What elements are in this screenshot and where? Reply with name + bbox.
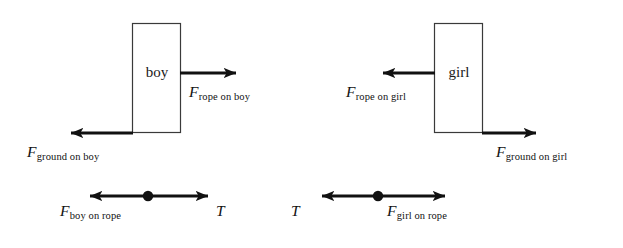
force-symbol-boy-on-rope: F — [60, 202, 69, 219]
rope-right-center-dot — [373, 191, 383, 201]
rope-left-center-dot — [143, 191, 153, 201]
girl-body-label: girl — [435, 64, 483, 81]
force-symbol-rope-on-boy: F — [189, 83, 198, 100]
boy-body-label: boy — [133, 64, 181, 81]
force-diagram-figure: boy girl Frope on boy Fground on boy Fro… — [0, 0, 623, 248]
force-subscript-boy-on-rope: boy on rope — [70, 210, 121, 221]
force-symbol-ground-on-boy: F — [27, 143, 36, 160]
force-subscript-girl-on-rope: girl on rope — [397, 210, 447, 221]
force-label-girl-on-rope: Fgirl on rope — [387, 203, 447, 219]
force-symbol-ground-on-girl: F — [496, 143, 505, 160]
force-subscript-rope-on-girl: rope on girl — [356, 91, 406, 102]
force-label-rope-on-boy: Frope on boy — [189, 84, 250, 100]
tension-label-right: T — [291, 202, 300, 220]
force-label-ground-on-girl: Fground on girl — [496, 144, 567, 160]
tension-label-left: T — [216, 202, 225, 220]
force-subscript-ground-on-girl: ground on girl — [506, 151, 567, 162]
force-label-ground-on-boy: Fground on boy — [27, 144, 99, 160]
force-symbol-rope-on-girl: F — [346, 83, 355, 100]
force-label-rope-on-girl: Frope on girl — [346, 84, 406, 100]
force-label-boy-on-rope: Fboy on rope — [60, 203, 121, 219]
force-subscript-ground-on-boy: ground on boy — [37, 151, 100, 162]
force-subscript-rope-on-boy: rope on boy — [199, 91, 250, 102]
force-symbol-girl-on-rope: F — [387, 202, 396, 219]
